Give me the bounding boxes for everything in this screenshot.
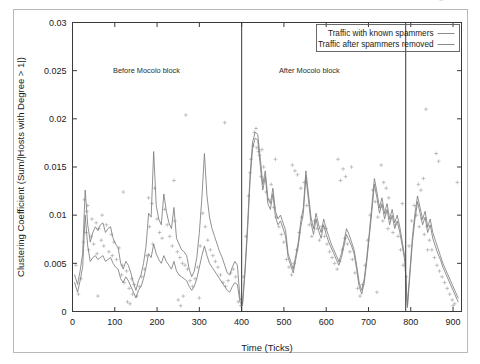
scatter-point bbox=[223, 121, 227, 125]
scatter-point bbox=[95, 252, 99, 256]
scatter-point bbox=[165, 223, 169, 227]
scatter-point bbox=[376, 215, 380, 219]
scatter-point bbox=[336, 157, 340, 161]
scatter-point bbox=[285, 258, 289, 262]
scatter-point bbox=[407, 244, 411, 248]
y-tick-label: 0.02 bbox=[49, 114, 67, 124]
scatter-point bbox=[121, 190, 125, 194]
scatter-point bbox=[198, 244, 202, 248]
scatter-point bbox=[181, 294, 185, 298]
x-tick-label: 600 bbox=[319, 317, 334, 327]
scatter-point bbox=[325, 242, 329, 246]
scatter-point bbox=[96, 294, 100, 298]
scatter-point bbox=[305, 204, 309, 208]
scatter-point bbox=[290, 273, 294, 277]
scatter-point bbox=[158, 231, 162, 235]
scatter-point bbox=[438, 269, 442, 273]
scatter-point bbox=[128, 302, 132, 306]
x-tick-label: 800 bbox=[403, 317, 418, 327]
scatter-point bbox=[260, 148, 264, 152]
x-tick-label: 0 bbox=[70, 317, 75, 327]
scatter-point bbox=[437, 159, 441, 163]
scatter-point bbox=[274, 157, 278, 161]
x-tick-label: 500 bbox=[276, 317, 291, 327]
scatter-point bbox=[183, 263, 187, 267]
scatter-point bbox=[335, 267, 339, 271]
scatter-point bbox=[350, 165, 354, 169]
scatter-point bbox=[358, 294, 362, 298]
scatter-point bbox=[299, 186, 303, 190]
scatter-point bbox=[176, 298, 180, 302]
scatter-point bbox=[416, 182, 420, 186]
scatter-point bbox=[323, 234, 327, 238]
y-tick-label: 0.03 bbox=[49, 18, 67, 28]
scatter-point bbox=[110, 254, 114, 258]
scatter-point bbox=[287, 265, 291, 269]
scatter-point bbox=[417, 225, 421, 229]
scatter-point bbox=[345, 242, 349, 246]
scatter-point bbox=[341, 167, 345, 171]
scatter-point bbox=[74, 263, 78, 267]
scatter-point bbox=[455, 181, 459, 185]
scatter-point bbox=[178, 256, 182, 260]
scatter-point bbox=[410, 219, 414, 223]
scatter-point bbox=[384, 186, 388, 190]
legend-label-1[interactable]: Traffic after spammers removed bbox=[318, 40, 434, 49]
scatter-point bbox=[412, 204, 416, 208]
y-tick-label: 0.025 bbox=[44, 66, 67, 76]
scatter-point bbox=[127, 286, 131, 290]
scatter-point bbox=[77, 292, 81, 296]
y-tick-label: 0 bbox=[61, 307, 66, 317]
scatter-point bbox=[147, 196, 151, 200]
scatter-point bbox=[90, 217, 94, 221]
scatter-point bbox=[307, 223, 311, 227]
scatter-point bbox=[391, 231, 395, 235]
scatter-point bbox=[375, 290, 379, 294]
scatter-point bbox=[168, 234, 172, 238]
scatter-point bbox=[328, 250, 332, 254]
scatter-point bbox=[219, 273, 223, 277]
series-line-1 bbox=[75, 138, 459, 308]
scatter-point bbox=[445, 286, 449, 290]
plot-annotation: Before Mocolo block bbox=[113, 66, 180, 75]
scatter-point bbox=[339, 179, 343, 183]
scatter-point bbox=[115, 258, 119, 262]
scatter-point bbox=[148, 225, 152, 229]
scatter-point bbox=[382, 181, 386, 185]
scatter-point bbox=[214, 260, 218, 264]
scatter-point bbox=[226, 279, 230, 283]
scatter-point bbox=[279, 233, 283, 237]
scatter-point bbox=[92, 242, 96, 246]
scatter-point bbox=[234, 275, 238, 279]
legend-label-0[interactable]: Traffic with known spammers bbox=[328, 29, 434, 38]
scatter-point bbox=[184, 113, 188, 117]
scatter-point bbox=[175, 250, 179, 254]
scatter-point bbox=[379, 163, 383, 167]
scatter-point bbox=[422, 233, 426, 237]
scatter-point bbox=[172, 179, 176, 183]
scatter-point bbox=[125, 269, 129, 273]
x-tick-label: 200 bbox=[150, 317, 165, 327]
scatter-point bbox=[424, 107, 428, 111]
clustering-coefficient-chart: 0100200300400500600700800900 00.0050.010… bbox=[0, 0, 480, 364]
scatter-point bbox=[435, 263, 439, 267]
scatter-point bbox=[422, 177, 426, 181]
scatter-point bbox=[206, 238, 210, 242]
scatter-point bbox=[262, 165, 266, 169]
scatter-point bbox=[277, 225, 281, 229]
series-lines bbox=[75, 132, 459, 307]
chart-legend[interactable]: Traffic with known spammersTraffic after… bbox=[317, 25, 460, 52]
scatter-point bbox=[310, 234, 314, 238]
scatter-point bbox=[170, 244, 174, 248]
scatter-point bbox=[126, 300, 130, 304]
scatter-point bbox=[160, 236, 164, 240]
scatter-point bbox=[396, 234, 400, 238]
scatter-point bbox=[373, 200, 377, 204]
x-tick-label: 400 bbox=[234, 317, 249, 327]
scatter-point bbox=[401, 263, 405, 267]
x-tick-label: 100 bbox=[107, 317, 122, 327]
y-tick-label: 0.015 bbox=[44, 162, 67, 172]
scatter-point bbox=[94, 221, 98, 225]
scatter-point bbox=[181, 261, 185, 265]
scatter-point bbox=[99, 238, 103, 242]
